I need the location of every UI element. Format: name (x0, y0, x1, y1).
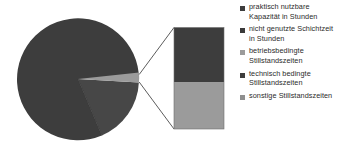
legend-label-3: technisch bedingte Stillstandszeiten (249, 69, 311, 88)
callout-leader-line-bottom (139, 82, 174, 129)
legend-item-nicht-genutzte-schichtzeit[interactable]: nicht genutzte Schichtzeit in Stunden (240, 24, 358, 43)
legend-item-betriebsbedingte-stillstandszeiten[interactable]: betriebsbedingte Stillstandszeiten (240, 46, 358, 65)
legend-item-technisch-bedingte-stillstandszeiten[interactable]: technisch bedingte Stillstandszeiten (240, 69, 358, 88)
pie-chart-with-callout: praktisch nutzbare Kapazität in Stunden … (0, 0, 358, 156)
legend-label-4: sonstige Stillstandszeiten (249, 91, 332, 101)
legend-item-sonstige-stillstandszeiten[interactable]: sonstige Stillstandszeiten (240, 91, 358, 101)
legend-label-0: praktisch nutzbare Kapazität in Stunden (249, 2, 317, 21)
legend-swatch-icon-2 (240, 50, 245, 55)
legend-item-praktisch-nutzbare-kapazitaet[interactable]: praktisch nutzbare Kapazität in Stunden (240, 2, 358, 21)
chart-legend: praktisch nutzbare Kapazität in Stunden … (240, 2, 358, 103)
legend-swatch-icon-3 (240, 73, 245, 78)
callout-segment-technisch-bedingte[interactable] (174, 83, 224, 130)
legend-swatch-icon-4 (240, 95, 245, 100)
callout-segment-betriebsbedingte[interactable] (174, 28, 224, 83)
legend-swatch-icon-0 (240, 6, 245, 11)
legend-label-2: betriebsbedingte Stillstandszeiten (249, 46, 304, 65)
legend-swatch-icon-1 (240, 28, 245, 33)
callout-leader-line-top (139, 28, 174, 75)
legend-label-1: nicht genutzte Schichtzeit in Stunden (249, 24, 333, 43)
